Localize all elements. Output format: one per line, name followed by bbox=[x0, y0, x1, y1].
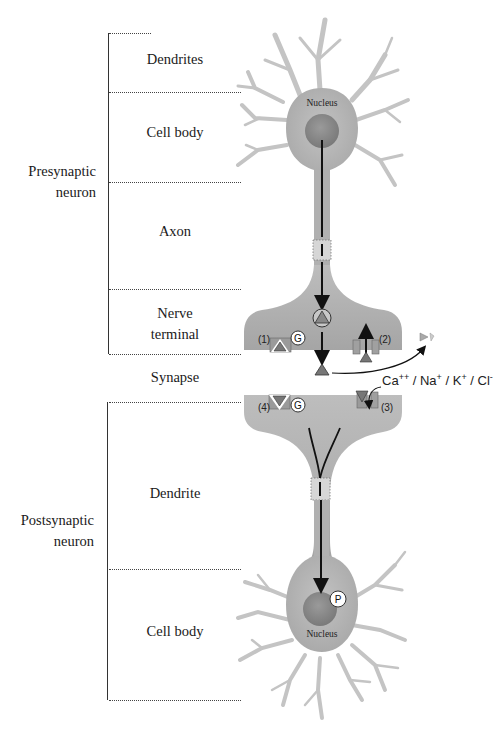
ion-label: Ca++ / Na+ / K+ / Cl- bbox=[382, 372, 493, 388]
ion-ca: Ca bbox=[382, 373, 399, 388]
vesicle-icon bbox=[313, 309, 331, 327]
bottom-nucleus-label: Nucleus bbox=[306, 629, 337, 639]
site3-marker: (3) bbox=[381, 402, 393, 413]
ion-cl: Cl bbox=[478, 373, 490, 388]
site1-receptor bbox=[270, 338, 291, 352]
neurotransmitter-icon bbox=[315, 364, 329, 375]
ion-na: Na bbox=[420, 373, 437, 388]
site2-marker: (2) bbox=[379, 334, 391, 345]
top-nucleus-label: Nucleus bbox=[306, 98, 337, 108]
g-protein-bottom: G bbox=[294, 400, 302, 411]
phosphate-marker: P bbox=[335, 594, 342, 605]
site4-receptor bbox=[269, 395, 290, 410]
neuron-illustration: Nucleus Nucleus bbox=[0, 0, 501, 732]
site4-marker: (4) bbox=[258, 402, 270, 413]
site1-marker: (1) bbox=[258, 334, 270, 345]
g-protein-top: G bbox=[294, 333, 302, 344]
degraded-transmitter-icon bbox=[420, 333, 434, 341]
